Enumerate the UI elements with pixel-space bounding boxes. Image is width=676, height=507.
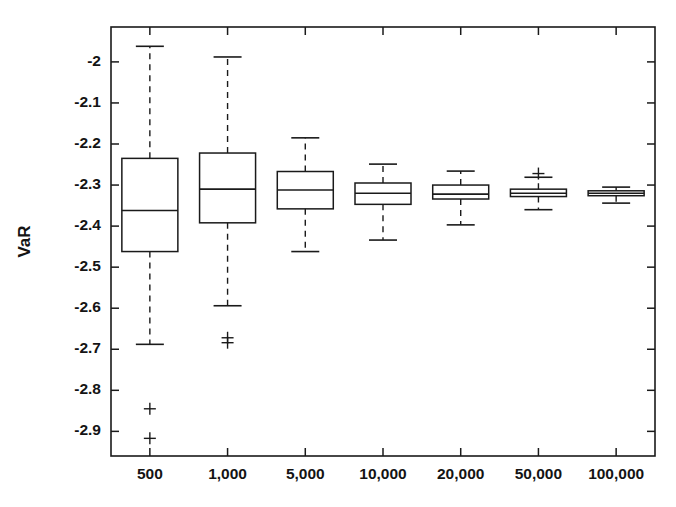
y-tick-label: -2.9 xyxy=(74,421,101,438)
x-axis-ticks xyxy=(150,27,616,456)
box-iqr xyxy=(433,185,489,199)
y-axis-tick-labels: -2-2.1-2.2-2.3-2.4-2.5-2.6-2.7-2.8-2.9 xyxy=(74,52,101,438)
box-group-100000 xyxy=(588,187,644,203)
box-iqr xyxy=(200,153,256,223)
y-tick-label: -2.2 xyxy=(74,134,101,151)
box-group-500 xyxy=(122,46,178,444)
y-tick-label: -2.4 xyxy=(74,216,101,233)
y-axis-ticks xyxy=(111,62,655,431)
y-tick-label: -2.8 xyxy=(74,380,101,397)
y-tick-label: -2.3 xyxy=(74,175,101,192)
boxplot-svg: -2-2.1-2.2-2.3-2.4-2.5-2.6-2.7-2.8-2.9 5… xyxy=(0,0,676,507)
boxplot-series xyxy=(122,46,644,444)
box-group-20000 xyxy=(433,171,489,225)
box-group-10000 xyxy=(355,164,411,240)
y-tick-label: -2.7 xyxy=(74,339,101,356)
y-axis-label: VaR xyxy=(15,225,34,257)
y-tick-label: -2.5 xyxy=(74,257,101,274)
x-tick-label: 50,000 xyxy=(515,465,562,482)
plot-frame xyxy=(111,27,655,456)
box-iqr xyxy=(122,158,178,251)
box-group-5000 xyxy=(277,138,333,252)
y-tick-label: -2 xyxy=(87,52,101,69)
x-tick-label: 1,000 xyxy=(208,465,247,482)
x-tick-label: 5,000 xyxy=(286,465,325,482)
boxplot-figure: -2-2.1-2.2-2.3-2.4-2.5-2.6-2.7-2.8-2.9 5… xyxy=(0,0,676,507)
x-axis-tick-labels: 5001,0005,00010,00020,00050,000100,000 xyxy=(137,465,644,482)
y-axis-title: VaR xyxy=(15,225,34,257)
x-tick-label: 20,000 xyxy=(437,465,484,482)
x-tick-label: 500 xyxy=(137,465,163,482)
y-tick-label: -2.1 xyxy=(74,93,101,110)
box-group-50000 xyxy=(510,168,566,210)
y-tick-label: -2.6 xyxy=(74,298,101,315)
x-tick-label: 100,000 xyxy=(588,465,644,482)
x-tick-label: 10,000 xyxy=(359,465,406,482)
box-group-1000 xyxy=(200,57,256,349)
plot-border xyxy=(111,27,655,456)
